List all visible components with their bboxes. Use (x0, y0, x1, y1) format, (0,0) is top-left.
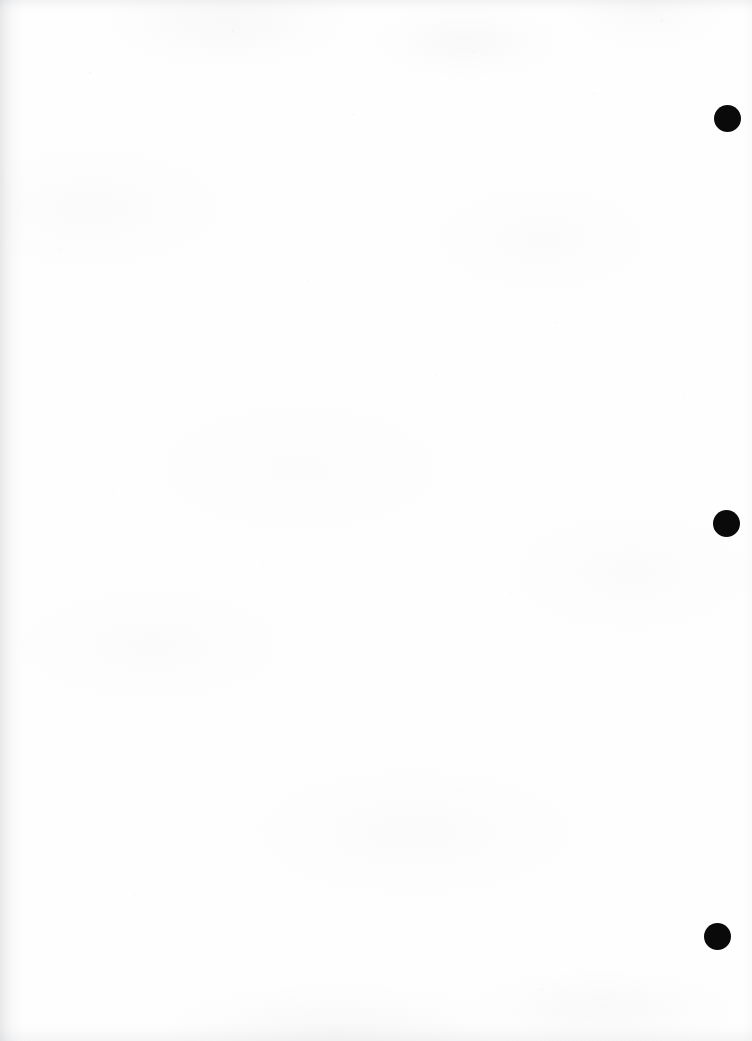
scanned-page (0, 0, 752, 1041)
paper-background (0, 0, 752, 1041)
hole-punch-mark (714, 105, 741, 132)
hole-punch-mark (704, 923, 731, 950)
hole-punch-mark (713, 510, 740, 537)
